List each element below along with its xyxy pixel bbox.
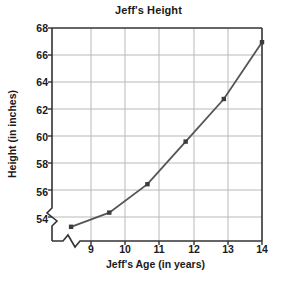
plot-background <box>52 28 262 241</box>
chart-figure: Jeff's Height Height (in inches) Jeff's … <box>0 0 297 281</box>
data-point-age-10 <box>107 210 111 214</box>
data-point-age-11 <box>145 182 149 186</box>
data-point-age-12 <box>183 139 187 143</box>
plot-area <box>0 0 297 281</box>
data-point-age-13 <box>222 97 226 101</box>
data-point-age-9 <box>69 225 73 229</box>
data-point-age-14 <box>260 40 264 44</box>
